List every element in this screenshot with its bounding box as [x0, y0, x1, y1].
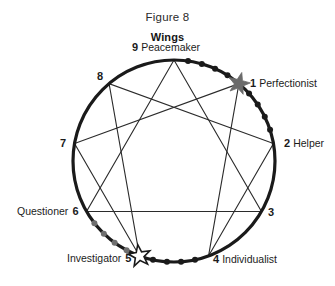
point-label-6: Questioner6 [17, 206, 79, 217]
point-number-8: 8 [97, 70, 103, 82]
wing-dot-1-2 [246, 90, 252, 96]
point-number-1: 1 [250, 77, 256, 89]
point-number-3: 3 [268, 206, 274, 218]
point-label-2: 2Helper [284, 138, 324, 149]
wing-dot-5-4 [192, 257, 198, 263]
wing-dot-5-4 [178, 259, 184, 265]
enneagram-figure: Figure 8 Wings 9Peacemaker1Perfectionist… [0, 0, 335, 286]
point-label-9: 9Peacemaker [132, 42, 200, 53]
wing-dot-6-5 [101, 231, 107, 237]
inner-hexad-path [75, 84, 274, 256]
wing-dot-1-2 [262, 114, 268, 120]
wing-dot-9-1 [212, 66, 218, 72]
point-number-4: 4 [213, 253, 219, 265]
wing-dot-1-2 [255, 102, 261, 108]
point-label-8: 8 [93, 71, 103, 82]
point-label-3: 3 [268, 207, 277, 218]
wing-dot-5-4 [164, 259, 170, 265]
point-name-2: Helper [293, 137, 324, 149]
point-label-5: Investigator5 [67, 253, 131, 264]
point-label-7: 7 [56, 138, 66, 149]
point-name-4: Individualist [222, 253, 277, 265]
wing-dot-9-1 [199, 61, 205, 67]
point-number-6: 6 [72, 205, 78, 217]
wing-dot-6-5 [91, 220, 97, 226]
point-name-1: Perfectionist [259, 77, 317, 89]
wing-dot-5-4 [150, 257, 156, 263]
wing-dot-1-2 [267, 127, 273, 133]
point-label-1: 1Perfectionist [250, 78, 317, 89]
point-number-9: 9 [132, 41, 138, 53]
point-name-6: Questioner [17, 205, 68, 217]
point-name-9: Peacemaker [141, 41, 200, 53]
point-label-4: 4Individualist [213, 254, 277, 265]
point-name-5: Investigator [67, 252, 121, 264]
point-number-7: 7 [60, 137, 66, 149]
point-number-5: 5 [125, 252, 131, 264]
wing-dot-6-5 [112, 240, 118, 246]
wing-dot-9-1 [185, 58, 191, 64]
point-number-2: 2 [284, 137, 290, 149]
